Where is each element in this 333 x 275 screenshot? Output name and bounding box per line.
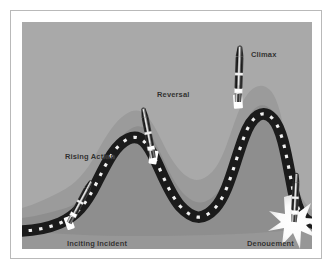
label-denouement: Denouement xyxy=(247,240,294,248)
label-rising-action: Rising Action xyxy=(65,153,115,161)
label-inciting-incident: Inciting Incident xyxy=(67,240,127,248)
figure-frame: Rising Action Inciting Incident Reversal… xyxy=(10,10,322,259)
narrative-arc-illustration: Rising Action Inciting Incident Reversal… xyxy=(22,22,312,249)
label-climax: Climax xyxy=(251,51,277,59)
label-reversal: Reversal xyxy=(157,91,189,99)
